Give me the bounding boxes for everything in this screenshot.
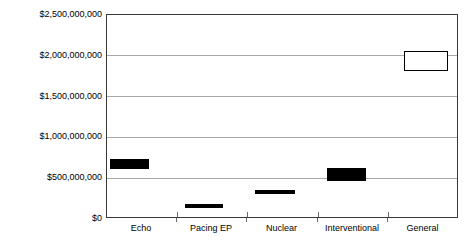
y-axis-tick-label: $1,500,000,000: [6, 92, 106, 101]
x-axis-label-pacing-ep: Pacing EP: [176, 224, 246, 233]
bar-pacing-ep: [185, 204, 223, 208]
x-axis-label-echo: Echo: [106, 224, 176, 233]
bar-interventional: [327, 168, 366, 181]
x-axis-label-interventional: Interventional: [317, 224, 387, 233]
y-axis-tick-label: $1,000,000,000: [6, 132, 106, 141]
x-axis-tick-mark: [246, 218, 247, 222]
gridline-500000000: [107, 178, 457, 179]
x-axis-tick-mark: [387, 218, 388, 222]
category-separator: [388, 212, 389, 217]
category-separator: [247, 212, 248, 217]
gridline-1500000000: [107, 96, 457, 97]
x-axis-label-nuclear: Nuclear: [246, 224, 317, 233]
category-separator: [318, 212, 319, 217]
chart-container: $0 $500,000,000 $1,000,000,000 $1,500,00…: [0, 0, 472, 249]
x-axis-label-general: General: [387, 224, 458, 233]
bar-nuclear: [255, 190, 295, 194]
bar-echo: [110, 159, 149, 169]
plot-area: [106, 14, 458, 218]
x-axis-tick-mark: [176, 218, 177, 222]
bar-general: [404, 51, 448, 71]
gridline-1000000000: [107, 137, 457, 138]
y-axis-tick-label: $2,500,000,000: [6, 10, 106, 19]
y-axis-tick-label: $500,000,000: [6, 173, 106, 182]
x-axis-tick-mark: [317, 218, 318, 222]
y-axis-tick-label: $2,000,000,000: [6, 51, 106, 60]
y-axis-tick-label: $0: [6, 214, 106, 223]
category-separator: [177, 212, 178, 217]
